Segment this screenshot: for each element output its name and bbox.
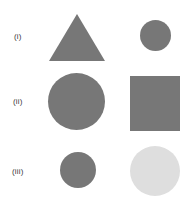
shape-small-circle-row1: [140, 20, 171, 51]
shape-small-circle-row3: [60, 152, 96, 188]
row-label-1: (i): [14, 33, 22, 41]
shape-square-row2: [130, 76, 180, 131]
figure-canvas: (i)(ii)(iii): [0, 0, 186, 216]
triangle-fill: [49, 14, 105, 61]
row-label-3: (iii): [12, 168, 24, 176]
row-label-2: (ii): [13, 98, 23, 106]
shape-large-light-circle-row3: [130, 146, 180, 196]
shape-triangle-row1: [49, 14, 105, 61]
shape-large-circle-row2: [48, 73, 105, 130]
